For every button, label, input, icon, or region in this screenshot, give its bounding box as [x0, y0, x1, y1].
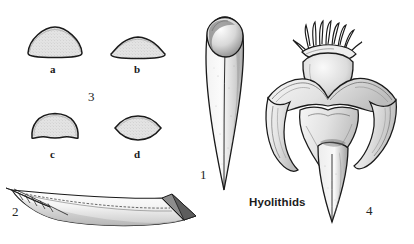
cross-section-c	[26, 108, 84, 146]
figure-4-life-reconstruction	[262, 6, 410, 238]
cross-section-a	[24, 22, 86, 62]
cross-section-label-c: c	[50, 149, 55, 160]
figure-number-2: 2	[12, 205, 19, 218]
figure-number-1: 1	[200, 168, 207, 181]
figure-2-curved-shell	[6, 182, 202, 240]
illustration-plate: a b 3 c d	[0, 0, 414, 244]
cross-section-label-a: a	[50, 64, 56, 75]
figure-number-3: 3	[88, 90, 95, 103]
cross-section-label-d: d	[134, 149, 140, 160]
cross-section-d	[112, 113, 164, 143]
figure-1-conical-shell	[198, 14, 256, 204]
cross-section-b	[108, 30, 168, 62]
figure-number-4: 4	[366, 204, 373, 217]
cross-section-label-b: b	[134, 64, 140, 75]
